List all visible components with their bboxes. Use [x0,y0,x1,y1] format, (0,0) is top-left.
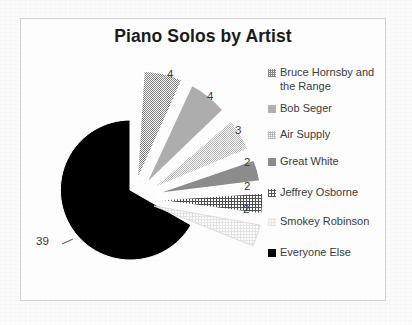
legend-label-jeffrey-osborne: Jeffrey Osborne [280,186,358,200]
legend-swatch-icon-jeffrey-osborne [268,189,276,197]
legend-swatch-icon-air-supply [268,131,276,139]
legend-swatch-icon-great-white [268,158,276,166]
legend-label-bruce-hornsby: Bruce Hornsby and the Range [280,66,384,93]
pie-chart-svg [24,48,274,298]
legend-label-bob-seger: Bob Seger [280,102,332,116]
data-label-air-supply: 3 [235,124,241,136]
legend-swatch-icon-bob-seger [268,105,276,113]
legend-item-great-white[interactable]: Great White [268,155,384,169]
legend-label-smokey-robinson: Smokey Robinson [280,215,369,229]
legend-item-bruce-hornsby[interactable]: Bruce Hornsby and the Range [268,66,384,93]
data-label-everyone-else: 39 [36,235,49,247]
legend-item-smokey-robinson[interactable]: Smokey Robinson [268,215,384,229]
data-label-smokey-robinson: 2 [243,203,249,215]
legend-swatch-icon-everyone-else [268,249,276,257]
chart-title: Piano Solos by Artist [20,26,386,47]
legend-item-everyone-else[interactable]: Everyone Else [268,246,384,260]
data-label-bob-seger: 4 [207,90,213,102]
data-label-great-white: 2 [244,156,250,168]
legend-swatch-icon-smokey-robinson [268,218,276,226]
legend-label-air-supply: Air Supply [280,128,330,142]
leader-line-everyone-else [62,239,73,244]
legend-item-bob-seger[interactable]: Bob Seger [268,102,384,116]
legend-label-everyone-else: Everyone Else [280,246,351,260]
legend-item-jeffrey-osborne[interactable]: Jeffrey Osborne [268,186,384,200]
screenshot-root: Piano Solos by Artist [0,0,412,325]
data-label-bruce-hornsby: 4 [167,68,173,80]
legend-item-air-supply[interactable]: Air Supply [268,128,384,142]
chart-legend: Bruce Hornsby and the Range Bob Seger Ai… [268,66,384,268]
legend-swatch-icon-bruce-hornsby [268,69,276,77]
data-label-jeffrey-osborne: 2 [244,180,250,192]
pie-chart-plot [24,48,274,298]
legend-label-great-white: Great White [280,155,339,169]
